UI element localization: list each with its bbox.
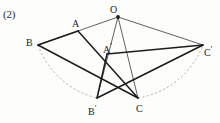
seg-A1-B1 <box>97 54 107 98</box>
prime-mark: ' <box>95 103 96 113</box>
geometry-diagram <box>0 0 220 123</box>
arc-C-to-C1 <box>138 45 203 98</box>
vertex-label-A: A <box>72 19 79 29</box>
vertex-label-C1: C' <box>204 45 212 58</box>
vertex-label-B1: B' <box>88 104 96 117</box>
segment-layer <box>38 17 203 98</box>
prime-mark: ' <box>211 44 212 54</box>
vertex-dot-O <box>116 15 120 19</box>
seg-O-C1 <box>118 17 203 45</box>
figure-panel: ① —— —— —— — (2) OABCA'B'C' <box>0 0 220 123</box>
vertex-dot-layer <box>116 15 120 19</box>
vertex-label-C: C <box>136 104 143 114</box>
vertex-label-B: B <box>26 38 33 48</box>
vertex-label-A1: A' <box>103 42 111 55</box>
vertex-label-O: O <box>110 5 117 15</box>
seg-B-A <box>38 31 78 45</box>
prime-mark: ' <box>110 41 111 51</box>
